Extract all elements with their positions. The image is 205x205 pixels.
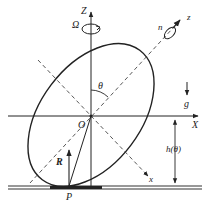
ellipsoid-diagram: Z Ω n z θ g O X h(θ) R x P	[0, 0, 205, 205]
label-g: g	[184, 98, 189, 109]
origin-point	[90, 115, 93, 118]
label-theta: θ	[98, 80, 103, 91]
label-Z: Z	[81, 5, 87, 16]
label-h-theta: h(θ)	[166, 144, 181, 154]
body-axis-z-arrow	[173, 20, 180, 28]
label-R: R	[55, 156, 63, 167]
label-n: n	[158, 22, 163, 32]
label-z: z	[186, 12, 191, 22]
body-axis-x	[38, 60, 148, 176]
label-Omega: Ω	[72, 19, 79, 30]
theta-arc	[91, 90, 108, 97]
label-x: x	[148, 174, 153, 184]
n-rotation-icon	[162, 25, 177, 41]
label-P: P	[65, 191, 72, 202]
ground-plane	[8, 186, 202, 189]
label-O: O	[78, 119, 85, 130]
label-X: X	[191, 119, 199, 130]
